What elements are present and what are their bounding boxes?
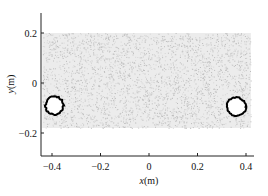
y-axis-label: y(m): [5, 75, 17, 95]
particle-cloud: [42, 33, 251, 129]
scatter-chart: −0.4−0.200.20.4 −0.200.2 x(m) y(m): [0, 0, 268, 196]
x-axis-label: x(m): [139, 175, 159, 187]
y-tick-label: −0.2: [19, 128, 37, 139]
x-tick-label: −0.2: [91, 161, 109, 172]
y-ticks: −0.200.2: [19, 28, 44, 139]
x-tick-label: 0: [147, 161, 152, 172]
x-tick-label: 0.4: [240, 161, 253, 172]
x-tick-label: 0.2: [191, 161, 204, 172]
x-tick-label: −0.4: [43, 161, 61, 172]
y-tick-label: 0: [32, 78, 37, 89]
y-tick-label: 0.2: [25, 28, 38, 39]
